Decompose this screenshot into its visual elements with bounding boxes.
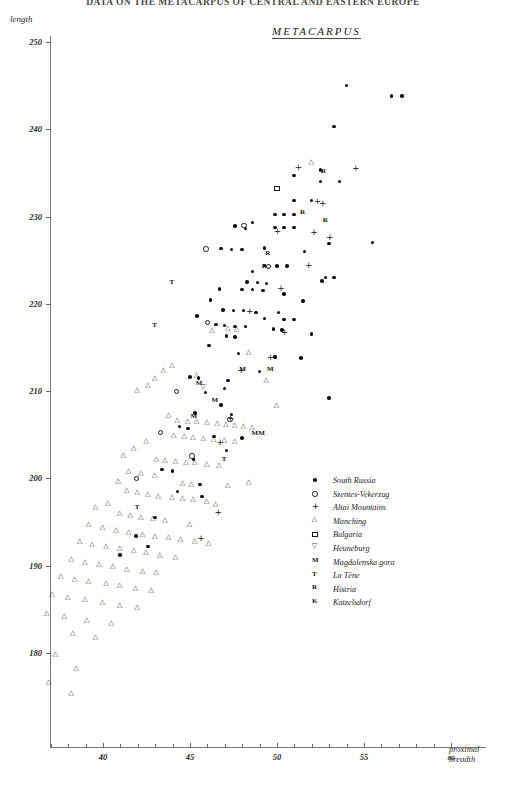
x-tick [190,743,191,748]
y-axis-label: length [10,14,33,24]
legend-label: South Russia [333,474,376,487]
y-tick-label: 220 [16,299,42,309]
legend-item: Magdalenska gora [315,556,455,570]
y-tick [46,42,51,43]
y-tick-label: 180 [16,648,42,658]
x-tick [294,744,295,748]
x-tick [242,744,243,748]
x-tick [225,744,226,748]
scatter-figure: DATA ON THE METACARPUS OF CENTRAL AND EA… [0,0,506,786]
y-tick [46,304,51,305]
plot-title: METACARPUS [272,25,361,39]
legend-item: Szentes-Vekerzug [315,488,455,502]
x-tick-label: 50 [264,752,290,762]
y-tick [46,391,51,392]
legend-label: Szentes-Vekerzug [333,488,389,501]
x-tick-label: 45 [177,752,203,762]
y-tick [46,129,51,130]
legend: South RussiaSzentes-VekerzugAltai Mounta… [315,474,455,610]
running-header: DATA ON THE METACARPUS OF CENTRAL AND EA… [0,0,506,6]
x-tick [260,744,261,748]
x-tick-label: 55 [351,752,377,762]
x-tick [381,744,382,748]
legend-item: Katzelsdorf [315,596,455,610]
x-tick [329,744,330,748]
x-tick [120,744,121,748]
x-tick [347,744,348,748]
y-tick-label: 190 [16,561,42,571]
legend-label: Histria [333,583,356,596]
legend-label: Altai Mountains [333,501,386,514]
y-tick [46,478,51,479]
x-tick [155,744,156,748]
x-tick [86,744,87,748]
y-tick-label: 230 [16,212,42,222]
x-tick [51,744,52,748]
legend-item: Histria [315,583,455,597]
legend-item: La Tène [315,569,455,583]
legend-label: Manching [333,515,366,528]
y-tick-label: 240 [16,124,42,134]
x-tick [434,744,435,748]
legend-label: Heuneburg [333,542,370,555]
y-tick [46,566,51,567]
legend-item: Manching [315,515,455,529]
y-tick [46,653,51,654]
y-tick-label: 250 [16,37,42,47]
y-tick-label: 200 [16,473,42,483]
legend-item: Heuneburg [315,542,455,556]
x-axis-label: proximal breadth [449,745,479,764]
x-tick [416,744,417,748]
legend-item: South Russia [315,474,455,488]
x-tick [364,743,365,748]
legend-label: La Tène [333,569,360,582]
legend-item: Altai Mountains [315,501,455,515]
legend-item: Bulgaria [315,528,455,542]
x-axis-line [50,747,486,748]
legend-label: Katzelsdorf [333,596,371,609]
legend-label: Bulgaria [333,528,362,541]
x-tick [138,744,139,748]
x-tick [173,744,174,748]
x-tick [399,744,400,748]
y-tick [46,217,51,218]
legend-label: Magdalenska gora [333,556,395,569]
x-axis-label-line2: breadth [449,755,479,765]
y-tick-label: 210 [16,386,42,396]
x-tick [277,743,278,748]
x-tick-label: 40 [90,752,116,762]
x-tick [207,744,208,748]
x-tick [312,744,313,748]
x-tick [103,743,104,748]
x-tick [68,744,69,748]
